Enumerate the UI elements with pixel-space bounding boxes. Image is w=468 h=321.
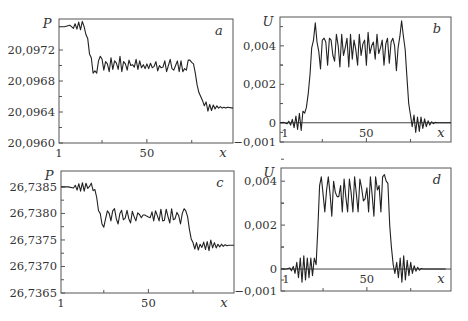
x-tick-label-1: 1 <box>281 126 288 140</box>
y-axis-label: U <box>264 165 276 180</box>
panel-b-chart: −0,00100,0020,004150xUb <box>233 14 451 149</box>
data-curve <box>280 21 451 133</box>
x-tick-label-50: 50 <box>360 272 375 286</box>
data-curve <box>59 21 233 111</box>
y-tick-label: 0,002 <box>244 218 277 232</box>
data-curve <box>281 175 446 283</box>
y-tick-label: −0,001 <box>233 135 276 149</box>
y-tick-label: 0,004 <box>243 39 276 53</box>
y-tick-label: −0,001 <box>234 284 277 298</box>
x-tick-label-1: 1 <box>55 146 62 160</box>
y-axis-label: P <box>42 16 52 31</box>
y-tick-label: 0 <box>270 262 277 276</box>
y-tick-label: 26,7380 <box>9 206 57 220</box>
y-tick-label: 0 <box>269 116 276 130</box>
x-tick-label-50: 50 <box>141 296 156 310</box>
y-tick-label: 20,0964 <box>7 105 55 119</box>
x-tick-label-1: 1 <box>282 272 289 286</box>
x-axis-label: x <box>437 125 445 140</box>
x-tick-label-1: 1 <box>57 296 64 310</box>
panel-c-chart: 26,736526,737026,737526,738026,7385150xP… <box>9 168 234 310</box>
y-tick-label: 20,0968 <box>7 74 55 88</box>
plot-frame <box>59 19 233 143</box>
x-axis-label: x <box>437 271 445 286</box>
panel-letter: b <box>433 21 441 36</box>
y-tick-label: 26,7370 <box>9 259 57 273</box>
y-tick-label: 20,0960 <box>7 136 55 150</box>
y-axis-label: U <box>263 14 275 29</box>
plot-frame <box>61 171 234 293</box>
x-axis-label: x <box>220 295 228 310</box>
x-axis-label: x <box>219 145 227 160</box>
panel-letter: c <box>216 175 224 190</box>
y-tick-label: 26,7365 <box>9 286 57 300</box>
panel-a-chart: 20,096020,096420,096820,0972150xPa <box>7 16 233 160</box>
figure: 20,096020,096420,096820,0972150xPa −0,00… <box>0 0 468 321</box>
x-tick-label-50: 50 <box>140 146 155 160</box>
y-tick-label: 0,002 <box>243 77 276 91</box>
panel-letter: d <box>433 172 441 187</box>
y-tick-label: 26,7375 <box>9 233 57 247</box>
panel-d-chart: −0,00100,0020,004150xUd <box>234 159 451 298</box>
y-tick-label: 20,0972 <box>7 43 55 57</box>
panel-letter: a <box>215 23 223 38</box>
y-axis-label: P <box>44 168 54 183</box>
data-curve <box>61 183 234 251</box>
x-tick-label-50: 50 <box>359 126 374 140</box>
